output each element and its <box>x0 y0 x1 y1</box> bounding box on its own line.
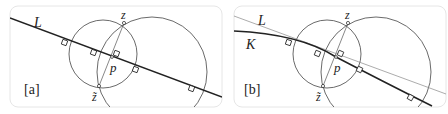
small-circle <box>69 20 137 88</box>
diagram-canvas: L z p z̃ [a] L K z p z̃ <box>0 0 448 114</box>
curve-K <box>234 31 432 106</box>
point-p <box>335 56 338 59</box>
right-angle-markers <box>285 39 414 101</box>
label-L: L <box>33 15 42 30</box>
panel-b: L K z p z̃ [b] <box>234 6 446 114</box>
panel-a: L z p z̃ [a] <box>10 6 222 114</box>
point-z-tilde <box>97 84 100 87</box>
panel-tag-b: [b] <box>244 82 260 97</box>
label-p: p <box>109 60 117 75</box>
point-p <box>111 56 114 59</box>
label-K: K <box>245 37 256 52</box>
panel-b-frame <box>234 6 446 107</box>
right-angle-markers <box>61 39 194 91</box>
label-z: z <box>344 8 350 22</box>
panel-a-frame <box>10 6 222 107</box>
chord-z-ztilde <box>99 23 124 86</box>
label-z-tilde: z̃ <box>315 90 321 104</box>
chord-z-ztilde <box>323 23 348 86</box>
label-p: p <box>333 60 341 75</box>
label-L: L <box>257 13 266 28</box>
label-z: z <box>120 8 126 22</box>
panel-tag-a: [a] <box>24 82 40 97</box>
point-z-tilde <box>321 84 324 87</box>
label-z-tilde: z̃ <box>91 90 97 104</box>
small-circle <box>293 20 361 88</box>
